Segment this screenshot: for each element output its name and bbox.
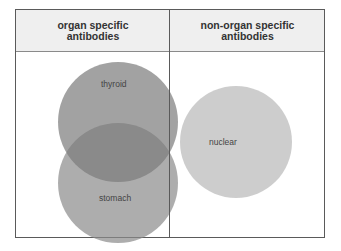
column-divider	[169, 9, 170, 238]
venn-diagram	[0, 0, 341, 251]
stomach-label: stomach	[99, 193, 131, 203]
nuclear-label: nuclear	[209, 137, 237, 147]
thyroid-label: thyroid	[101, 79, 127, 89]
